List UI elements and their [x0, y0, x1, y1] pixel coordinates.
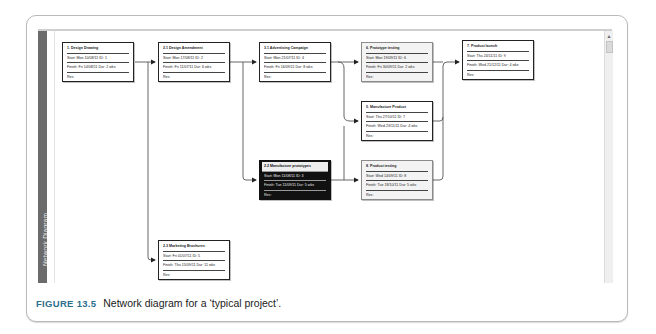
task-resources: Res:	[67, 73, 129, 82]
task-title: 2.2 Manufacture prototypes	[262, 162, 328, 172]
scroll-thumb[interactable]	[606, 41, 613, 53]
task-finish: Finish: Fri 11/07/11 Dur: 6 wks	[163, 63, 225, 73]
task-finish: Finish: Thu 15/09/11 Dur: 11 wks	[163, 261, 225, 271]
task-node-manufacture-product[interactable]: 5. Manufacture Product Start: Thu 27/10/…	[361, 101, 433, 141]
task-start: Start: Wed 14/09/11 ID: 8	[366, 172, 428, 182]
figure-caption-text: Network diagram for a ‘typical project’.	[103, 297, 281, 309]
task-resources: Res:	[264, 191, 326, 200]
task-start: Start: Fri 01/07/11 ID: 5	[163, 252, 225, 262]
task-node-product-launch[interactable]: 7. Product launch Start: Thu 24/11/11 ID…	[462, 40, 534, 80]
task-title: 2.3 Marketing Brochures	[163, 242, 225, 252]
task-finish: Finish: Fri 30/09/11 Dur: 2 wks	[366, 63, 428, 73]
task-start: Start: Mon 10/08/11 ID: 1	[67, 54, 129, 64]
scroll-up-arrow-icon[interactable]: ▲	[606, 34, 612, 39]
task-title: 2.1 Design Amendment	[163, 44, 225, 54]
task-title: 3.1 Advertising Campaign	[264, 44, 326, 54]
task-start: Start: Mon 19/09/11 ID: 6	[366, 54, 428, 64]
task-node-marketing-brochures[interactable]: 2.3 Marketing Brochures Start: Fri 01/07…	[158, 240, 230, 280]
task-finish: Finish: Wed 21/12/11 Dur: 4 wks	[467, 61, 529, 71]
task-finish: Finish: Fri 16/09/11 Dur: 8 wks	[264, 63, 326, 73]
task-resources: Res:	[366, 132, 428, 141]
task-title: 7. Product launch	[467, 42, 529, 52]
task-start: Start: Mon 21/07/11 ID: 4	[264, 54, 326, 64]
task-start: Start: Mon 11/08/11 ID: 3	[264, 172, 326, 182]
task-resources: Res:	[366, 73, 428, 82]
task-node-design-drawing[interactable]: 1. Design Drawing Start: Mon 10/08/11 ID…	[62, 42, 134, 82]
task-node-design-amendment[interactable]: 2.1 Design Amendment Start: Mon 17/08/11…	[158, 42, 230, 82]
task-finish: Finish: Wed 23/11/11 Dur: 4 wks	[366, 122, 428, 132]
task-title: 6. Prototype testing	[366, 44, 428, 54]
task-start: Start: Thu 24/11/11 ID: 9	[467, 52, 529, 62]
figure-number: FIGURE 13.5	[36, 298, 96, 309]
task-resources: Res:	[163, 271, 225, 280]
task-title: 5. Manufacture Product	[366, 103, 428, 113]
network-diagram-view: Network Diagram	[38, 29, 612, 283]
task-node-manufacture-prototypes[interactable]: 2.2 Manufacture prototypes Start: Mon 11…	[259, 160, 331, 200]
task-start: Start: Mon 17/08/11 ID: 2	[163, 54, 225, 64]
diagram-canvas: 1. Design Drawing Start: Mon 10/08/11 ID…	[38, 31, 604, 283]
task-finish: Finish: Fri 14/08/11 Dur: 2 wks	[67, 63, 129, 73]
vertical-scrollbar[interactable]: ▲	[604, 31, 613, 283]
task-node-prototype-testing[interactable]: 6. Prototype testing Start: Mon 19/09/11…	[361, 42, 433, 82]
task-resources: Res:	[366, 191, 428, 200]
task-title: 1. Design Drawing	[67, 44, 129, 54]
task-node-advertising-campaign[interactable]: 3.1 Advertising Campaign Start: Mon 21/0…	[259, 42, 331, 82]
task-node-product-testing[interactable]: 8. Product testing Start: Wed 14/09/11 I…	[361, 160, 433, 200]
task-resources: Res:	[467, 71, 529, 80]
task-resources: Res:	[163, 73, 225, 82]
task-finish: Finish: Tue 18/10/11 Dur: 5 wks	[366, 181, 428, 191]
task-resources: Res:	[264, 73, 326, 82]
task-start: Start: Thu 27/10/11 ID: 7	[366, 113, 428, 123]
task-title: 8. Product testing	[366, 162, 428, 172]
task-finish: Finish: Tue 11/09/11 Dur: 5 wks	[264, 181, 326, 191]
figure-caption: FIGURE 13.5 Network diagram for a ‘typic…	[36, 297, 281, 309]
